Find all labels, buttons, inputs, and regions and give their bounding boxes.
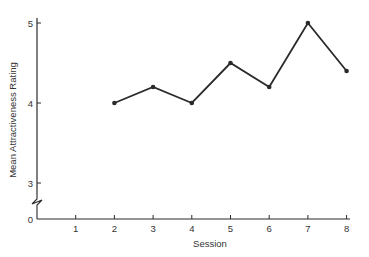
data-point (267, 85, 272, 90)
data-point (306, 21, 311, 26)
axis-break-icon (32, 195, 42, 219)
y-tick-label: 5 (28, 18, 33, 29)
x-tick-label: 3 (150, 223, 155, 234)
x-tick-label: 6 (267, 223, 272, 234)
data-point (112, 101, 117, 106)
x-axis-label: Session (193, 238, 227, 249)
data-point (151, 85, 156, 90)
x-tick-label: 4 (189, 223, 194, 234)
x-tick-label: 2 (112, 223, 117, 234)
y-tick-label: 3 (28, 178, 33, 189)
data-point (228, 61, 233, 66)
x-tick-label: 1 (73, 223, 78, 234)
data-point (190, 101, 195, 106)
x-tick-label: 8 (344, 223, 349, 234)
x-tick-label: 5 (228, 223, 233, 234)
y-tick-label: 4 (28, 98, 33, 109)
y-axis-label: Mean Attractiveness Rating (7, 62, 18, 178)
data-point (344, 69, 349, 74)
x-tick-label: 7 (305, 223, 310, 234)
y-tick-label: 0 (28, 214, 33, 225)
line-chart: 034512345678 (0, 0, 369, 257)
